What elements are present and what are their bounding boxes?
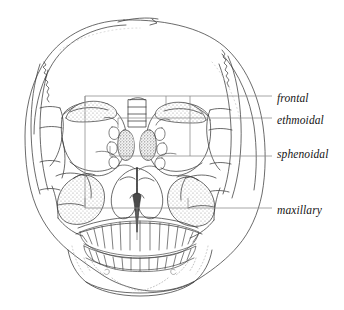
maxillary-sinus-left [57, 174, 104, 225]
ethmoid-air-cells [107, 127, 167, 170]
maxillary-sinus-right [167, 176, 214, 227]
coronal-suture-left [43, 62, 49, 102]
frontal-sinus-right [155, 102, 206, 123]
label-ethmoidal: ethmoidal [277, 114, 324, 126]
label-sphenoidal: sphenoidal [277, 148, 328, 160]
nasal-conchae [104, 117, 170, 170]
label-frontal: frontal [277, 92, 309, 104]
label-maxillary: maxillary [277, 204, 322, 216]
mandible [68, 250, 212, 296]
upper-teeth [80, 221, 199, 258]
frontal-sinus-left [66, 101, 117, 122]
mental-foramen-right [171, 269, 176, 274]
nasal-bridge [128, 98, 146, 127]
anatomical-figure: frontal ethmoidal sphenoidal maxillary [0, 0, 344, 310]
mental-foramen-left [104, 269, 109, 274]
